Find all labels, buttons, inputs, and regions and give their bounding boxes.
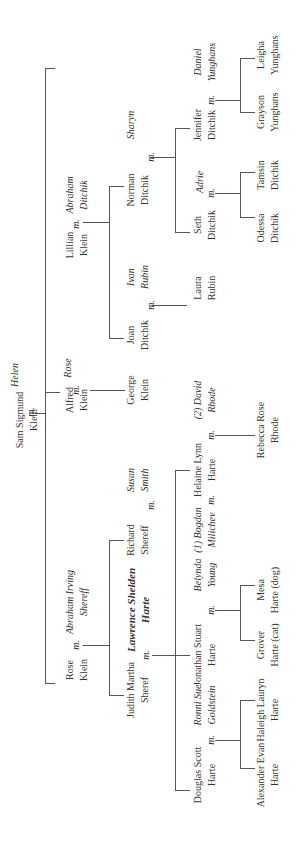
person-name-line1: (1) Bogdan [191, 507, 205, 552]
person-name-line2: Harte [268, 678, 282, 741]
person-name-line1: Daniel [191, 43, 205, 82]
person-name-line2: Rubin [138, 265, 152, 289]
person-name-line2: Ditchik [205, 210, 219, 240]
person-name-line2: Ditchik [268, 160, 282, 190]
person-name-line1: Ivan [124, 265, 138, 289]
person-name-line1: Haleigh Lauryn [254, 678, 268, 741]
person-name-line2: Harte [205, 624, 219, 686]
person-george: GeorgeKlein [124, 375, 152, 404]
connector-line [175, 232, 190, 233]
person-name-line1: Leigha [254, 35, 268, 74]
connector-line [240, 585, 255, 586]
marriage-marker: m. [70, 640, 81, 650]
connector-line [240, 700, 255, 701]
person-name-line1: Mesa [254, 567, 268, 613]
marriage-marker: m. [145, 152, 156, 162]
person-name-line1: Norman [124, 174, 138, 207]
person-laura: LauraRubin [191, 276, 219, 300]
person-richard: RichardShereff [124, 524, 152, 556]
person-jennifer: JenniferDitchik [191, 109, 219, 141]
person-name-line1: Abraham [63, 176, 77, 213]
person-name-line2: Harte [205, 443, 219, 497]
person-rebecca: Rebecca RoseRhode [254, 402, 282, 458]
person-rose_w: Rose [61, 358, 75, 377]
person-name-line1: Richard [124, 524, 138, 556]
person-daniel: DanielYunghans [191, 43, 219, 82]
person-jonathan: Jonathan StuartHarte [191, 624, 219, 686]
person-name-line2: Harte [205, 747, 219, 803]
connector-line [45, 683, 55, 684]
connector-line [175, 128, 176, 232]
person-name-line1: Alexander Evan [254, 743, 268, 808]
person-name-line2: Yunghans [268, 35, 282, 74]
person-name-line1: Douglas Scott [191, 747, 205, 803]
person-name-line1: Adrie [193, 171, 207, 193]
person-name-line2: Klein [27, 392, 41, 448]
person-name-line2: Ditchik [138, 320, 152, 350]
person-name-line1: Sam Sigmund [13, 392, 27, 448]
person-name-line2: Young [205, 559, 219, 592]
person-grover: GroverHarte (cat) [254, 623, 282, 666]
person-name-line2: Klein [77, 232, 91, 259]
connector-line [215, 740, 240, 741]
connector-line [240, 217, 255, 218]
person-name-line1: Alfred [63, 387, 77, 413]
marriage-marker: m. [205, 605, 216, 615]
person-name-line1: Lillian [63, 232, 77, 259]
marriage-marker: m. [205, 95, 216, 105]
person-name-line2: Ditchik [77, 176, 91, 213]
person-name-line2: Sheref [138, 662, 152, 718]
marriage-marker: m. [205, 735, 216, 745]
connector-line [109, 338, 124, 339]
marriage-marker: m. [145, 300, 156, 310]
person-name-line1: Rose [63, 659, 77, 681]
person-abraham_d: AbrahamDitchik [63, 176, 91, 213]
person-name-line2: Klein [77, 387, 91, 413]
person-name-line1: Seth [191, 210, 205, 240]
person-alexander: Alexander EvanHarte [254, 743, 282, 808]
person-judith: Judith MarthaSheref [124, 662, 152, 718]
person-name-line2: Yunghans [205, 43, 219, 82]
person-name-line1: Susan [124, 468, 138, 492]
person-name-line1: (2) David [191, 381, 205, 420]
connector-line [215, 610, 240, 611]
connector-line [109, 540, 110, 695]
person-name-line2: Ditchik [205, 109, 219, 141]
person-name-line1: Jonathan Stuart [191, 624, 205, 686]
connector-line [45, 68, 46, 683]
person-lillian: LillianKlein [63, 232, 91, 259]
person-name-line1: Grayson [254, 92, 268, 131]
person-name-line2: Harte [268, 743, 282, 808]
person-name-line2: Yunghans [268, 92, 282, 131]
connector-line [240, 700, 241, 768]
connector-line [109, 540, 124, 541]
person-susan: SusanSmith [124, 468, 152, 492]
marriage-marker: m. [205, 430, 216, 440]
person-name-line2: Smith [138, 468, 152, 492]
person-abraham_s: Abraham IrvingShereff [63, 570, 91, 634]
person-seth: SethDitchik [191, 210, 219, 240]
connector-line [175, 790, 190, 791]
person-rose: RoseKlein [63, 659, 91, 681]
person-haleigh: Haleigh LaurynHarte [254, 678, 282, 741]
person-name-line1: Sharyn [124, 111, 138, 139]
marriage-marker: m. [145, 500, 156, 510]
person-name-line2: Milichev [205, 507, 219, 552]
person-david: (2) DavidRhode [191, 381, 219, 420]
person-name-line2: Harte [138, 568, 152, 652]
person-helen: Helen [8, 363, 22, 387]
person-douglas: Douglas ScottHarte [191, 747, 219, 803]
person-name-line1: George [124, 375, 138, 404]
person-name-line1: Joan [124, 320, 138, 350]
person-norman: NormanDitchik [124, 174, 152, 207]
person-name-line2: Klein [77, 659, 91, 681]
person-name-line2: Rubin [205, 276, 219, 300]
person-leigha: LeighaYunghans [254, 35, 282, 74]
person-name-line1: Ronni Sue [191, 685, 205, 726]
connector-line [90, 390, 125, 391]
person-name-line1: Belynda [191, 559, 205, 592]
person-odessa: OdessaDitchik [254, 213, 282, 243]
person-name-line2: Rhode [268, 402, 282, 458]
connector-line [240, 640, 255, 641]
person-name-line1: Rose [61, 358, 75, 377]
